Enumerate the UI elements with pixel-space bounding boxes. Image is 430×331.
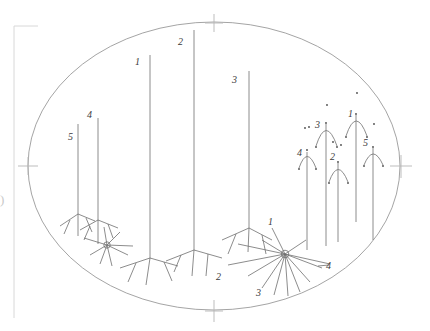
starburst-rays: [228, 228, 330, 296]
label-left-4: 4: [87, 109, 92, 120]
label-left-5: 5: [68, 131, 73, 142]
center-root-1: [120, 258, 178, 285]
label-arc-5: 5: [363, 137, 368, 148]
right-arc-cluster: [298, 92, 384, 250]
label-center-bottom-2: 2: [216, 271, 221, 282]
arc-unit-3: [308, 104, 338, 246]
label-burst-4: 4: [326, 260, 331, 271]
label-arc-4: 4: [297, 147, 302, 158]
figure-canvas: ): [0, 0, 430, 331]
diagram-svg: ): [0, 0, 430, 331]
paren-artifact: ): [0, 192, 4, 207]
starburst-cluster: [228, 228, 330, 296]
arc-unit-5: [363, 146, 384, 240]
left-root-4: [80, 220, 118, 244]
arc-unit-4: [298, 127, 317, 250]
label-center-3: 3: [231, 74, 237, 85]
ellipse-tick-marks: [18, 14, 412, 322]
label-burst-1: 1: [268, 216, 273, 227]
label-arc-1: 1: [348, 108, 353, 119]
label-burst-3: 3: [255, 287, 261, 298]
label-arc-2: 2: [330, 151, 335, 162]
left-starburst: [84, 227, 133, 266]
label-center-1: 1: [135, 56, 140, 67]
center-root-2: [166, 250, 222, 276]
label-center-2: 2: [178, 36, 183, 47]
page-frame-artifact: [14, 26, 38, 318]
center-root-3: [222, 228, 272, 254]
label-arc-3: 3: [314, 119, 320, 130]
boundary-ellipse: [28, 22, 400, 310]
